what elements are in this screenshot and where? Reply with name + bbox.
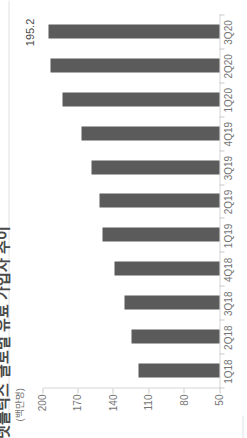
value-axis-tick xyxy=(219,388,220,393)
value-axis-tick xyxy=(42,388,43,393)
category-label-1Q18: 1Q18 xyxy=(222,354,235,388)
bar-3Q18 xyxy=(124,295,219,309)
category-label-2Q18: 2Q18 xyxy=(222,320,235,354)
bar-2Q18 xyxy=(131,329,219,343)
bar-3Q19 xyxy=(91,160,219,174)
value-axis-tick-label: 170 xyxy=(71,394,82,438)
chart-title-clipped: 넷플릭스 글로벌 유료 가입자 추이 xyxy=(0,138,12,438)
data-point-label: 195.2 xyxy=(23,2,35,62)
category-label-3Q18: 3Q18 xyxy=(222,286,235,320)
category-label-4Q19: 4Q19 xyxy=(222,117,235,151)
rotated-chart-canvas: 넷플릭스 글로벌 유료 가입자 추이 (백만명) 195.2 200170140… xyxy=(0,0,247,438)
category-label-1Q19: 1Q19 xyxy=(222,218,235,252)
value-axis-tick xyxy=(148,388,149,393)
bar-1Q20 xyxy=(62,92,219,106)
bar-4Q18 xyxy=(114,261,219,275)
value-axis-tick-label: 200 xyxy=(36,394,47,438)
value-axis-tick-label: 140 xyxy=(107,394,118,438)
category-label-2Q19: 2Q19 xyxy=(222,185,235,219)
value-axis-tick xyxy=(112,388,113,393)
axis-unit-label: (백만명) xyxy=(11,388,25,421)
category-label-1Q20: 1Q20 xyxy=(222,83,235,117)
bar-2Q20 xyxy=(50,58,219,72)
bar-1Q19 xyxy=(102,227,219,241)
chart-image: 넷플릭스 글로벌 유료 가입자 추이 (백만명) 195.2 200170140… xyxy=(0,0,247,438)
value-axis-tick-label: 50 xyxy=(213,394,224,438)
category-label-2Q20: 2Q20 xyxy=(222,49,235,83)
page-edge-rule-bottom xyxy=(242,415,243,438)
value-axis-tick xyxy=(183,388,184,393)
bar-3Q20 xyxy=(48,24,219,38)
bar-2Q19 xyxy=(99,194,219,208)
value-axis-tick xyxy=(77,388,78,393)
bar-4Q19 xyxy=(81,126,219,140)
category-label-3Q20: 3Q20 xyxy=(222,15,235,49)
bar-1Q18 xyxy=(138,363,219,377)
plot-area xyxy=(42,14,220,388)
value-axis-tick-label: 80 xyxy=(178,394,189,438)
value-axis-tick-label: 110 xyxy=(142,394,153,438)
category-label-3Q19: 3Q19 xyxy=(222,151,235,185)
category-label-4Q18: 4Q18 xyxy=(222,252,235,286)
